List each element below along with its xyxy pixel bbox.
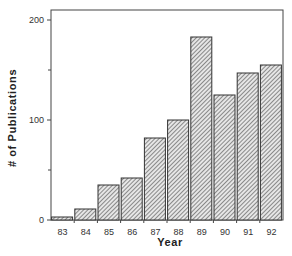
bar-83 [52, 217, 73, 220]
x-tick-label: 84 [81, 227, 91, 237]
y-axis-title: # of Publications [6, 69, 18, 167]
x-tick-label: 90 [220, 227, 230, 237]
y-axis: 0100200 [29, 15, 51, 225]
x-tick-label: 91 [243, 227, 253, 237]
x-tick-label: 89 [197, 227, 207, 237]
bars-group [52, 37, 282, 220]
x-axis: 83848586878889909192 [58, 220, 277, 237]
bar-92 [260, 65, 281, 220]
bar-88 [168, 120, 189, 220]
bar-86 [121, 178, 142, 220]
x-tick-label: 92 [266, 227, 276, 237]
bar-87 [144, 138, 165, 220]
x-axis-title: Year [157, 236, 183, 248]
bar-chart: 0100200 83848586878889909192 # of Public… [0, 0, 292, 256]
x-tick-label: 83 [58, 227, 68, 237]
bar-85 [98, 185, 119, 220]
y-tick-label: 100 [29, 115, 44, 125]
y-tick-label: 200 [29, 15, 44, 25]
bar-84 [75, 209, 96, 220]
x-tick-label: 85 [104, 227, 114, 237]
bar-89 [191, 37, 212, 220]
x-tick-label: 86 [127, 227, 137, 237]
bar-91 [237, 73, 258, 220]
y-tick-label: 0 [39, 215, 44, 225]
bar-90 [214, 95, 235, 220]
